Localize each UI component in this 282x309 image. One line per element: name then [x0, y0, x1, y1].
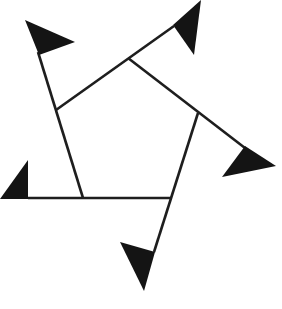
pinwheel-arm-5 — [0, 160, 172, 199]
flag-triangle-icon — [25, 20, 75, 55]
pinwheel-arm-1 — [25, 20, 83, 198]
flag-triangle-icon — [222, 146, 276, 177]
flag-triangle-icon — [0, 160, 28, 199]
pinwheel-arm-4 — [120, 113, 198, 291]
arm-line — [56, 26, 174, 110]
arm-line — [38, 52, 83, 198]
pinwheel-diagram — [0, 0, 282, 309]
flag-triangle-icon — [173, 0, 201, 55]
flag-triangle-icon — [120, 242, 155, 291]
arm-line — [128, 58, 245, 148]
arm-line — [154, 113, 198, 252]
pinwheel-arm-3 — [128, 58, 276, 177]
pinwheel-arm-2 — [56, 0, 201, 110]
